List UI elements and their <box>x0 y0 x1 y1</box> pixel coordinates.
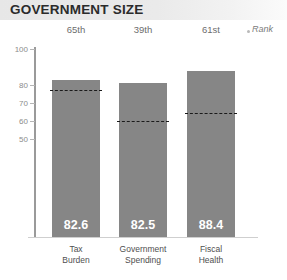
category-label-fiscal-health: Fiscal Health <box>183 244 239 265</box>
government-size-chart: GOVERNMENT SIZE 65th 39th 61st Rank 100 … <box>0 0 287 280</box>
page-title: GOVERNMENT SIZE <box>10 2 144 17</box>
y-tick-label-60: 60 <box>10 117 28 126</box>
rank-legend-dot-icon <box>247 30 250 33</box>
bar-value-tax-burden: 82.6 <box>52 218 100 232</box>
bar-government-spending: 82.5 <box>119 83 167 237</box>
y-axis-line <box>34 47 36 238</box>
rank-value-tax-burden: 65th <box>52 24 100 35</box>
y-tick-label-50: 50 <box>10 135 28 144</box>
y-tick-label-100: 100 <box>10 45 28 54</box>
average-line-government-spending <box>117 121 169 122</box>
bar-tax-burden: 82.6 <box>52 80 100 237</box>
y-tick-mark-100 <box>30 49 35 50</box>
y-tick-mark-60 <box>30 121 35 122</box>
y-tick-mark-50 <box>30 139 35 140</box>
y-tick-label-80: 80 <box>10 81 28 90</box>
y-tick-label-70: 70 <box>10 99 28 108</box>
category-label-government-spending: Government Spending <box>111 244 175 265</box>
average-line-fiscal-health <box>185 113 237 114</box>
y-tick-mark-80 <box>30 85 35 86</box>
rank-value-government-spending: 39th <box>119 24 167 35</box>
rank-legend-label: Rank <box>252 24 273 34</box>
average-line-tax-burden <box>50 90 102 91</box>
bar-value-fiscal-health: 88.4 <box>187 218 235 232</box>
rank-value-fiscal-health: 61st <box>187 24 235 35</box>
y-tick-mark-70 <box>30 103 35 104</box>
chart-title-bar: GOVERNMENT SIZE <box>0 0 287 20</box>
rank-row: 65th 39th 61st Rank <box>0 24 287 38</box>
category-label-row: Tax Burden Government Spending Fiscal He… <box>0 244 287 274</box>
bar-value-government-spending: 82.5 <box>119 218 167 232</box>
category-label-tax-burden: Tax Burden <box>48 244 104 265</box>
plot-area: 100 80 70 60 50 82.6 82.5 88.4 <box>0 42 287 242</box>
bar-fiscal-health: 88.4 <box>187 71 235 237</box>
x-axis-line <box>28 237 258 238</box>
